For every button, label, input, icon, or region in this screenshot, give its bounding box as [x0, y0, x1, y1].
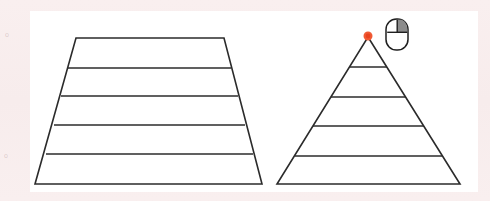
mouse-icon[interactable]	[386, 19, 408, 50]
triangle-figure[interactable]	[277, 37, 460, 184]
mouse-right-button-shade-icon	[397, 20, 407, 33]
trapezoid-outline	[35, 38, 262, 184]
apex-marker-core-icon	[366, 34, 371, 39]
screenshot-root: o o	[0, 0, 490, 201]
trapezoid-figure[interactable]	[35, 38, 262, 184]
diagram-svg	[0, 0, 490, 201]
triangle-outline	[277, 37, 460, 184]
